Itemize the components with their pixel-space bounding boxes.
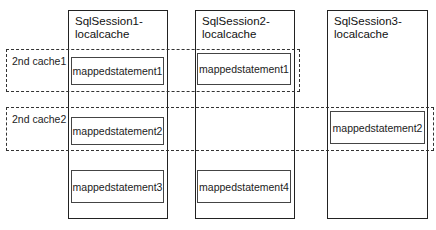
sqlsession2-title: SqlSession2- localcache — [202, 15, 270, 41]
s3-mappedstatement2: mappedstatement2 — [330, 111, 425, 144]
s2-mappedstatement4: mappedstatement4 — [197, 170, 291, 203]
s1-mappedstatement1: mappedstatement1 — [71, 57, 164, 85]
second-cache2-label: 2nd cache2 — [12, 113, 66, 125]
s1-mappedstatement2: mappedstatement2 — [71, 117, 164, 145]
s2-mappedstatement1: mappedstatement1 — [197, 53, 291, 85]
s1-mappedstatement3: mappedstatement3 — [71, 170, 164, 203]
second-cache1-label: 2nd cache1 — [12, 55, 66, 67]
sqlsession1-title: SqlSession1- localcache — [75, 15, 143, 41]
sqlsession3-title: SqlSession3- localcache — [334, 15, 402, 41]
